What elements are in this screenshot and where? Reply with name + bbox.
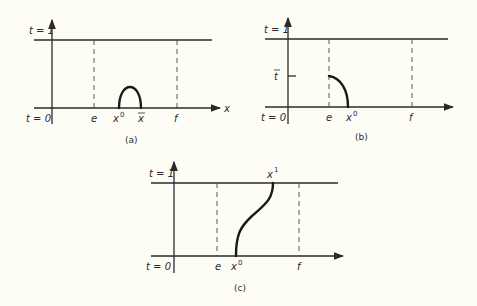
panel-a: t = 1 t = 0 x e x 0 x f (a) [26,20,230,145]
e-label: e [215,261,221,272]
x0-label: x [345,112,352,123]
x1-sup: 1 [274,166,278,174]
e-label: e [91,113,97,124]
caption-a: (a) [125,135,138,145]
x0-sup: 0 [353,110,357,118]
t1-label: t = 1 [149,168,174,179]
x-axis-label: x [223,103,230,114]
t1-label: t = 1 [29,25,54,36]
x1-label: x [266,169,273,180]
x0-sup: 0 [120,111,124,119]
caption-c: (c) [234,283,246,293]
xbar-label: x [137,113,144,124]
arc-curve [329,76,348,107]
bump-curve [119,87,141,108]
t0-label: t = 0 [146,261,171,272]
caption-b: (b) [355,132,368,142]
x0-sup: 0 [238,259,242,267]
panel-b: t = 1 t = 0 t e x 0 f (b) [261,18,453,142]
t1-label: t = 1 [264,24,289,35]
t0-label: t = 0 [26,113,51,124]
s-curve [236,183,273,256]
x0-label: x [230,261,237,272]
tbar-label: t [274,71,279,82]
diagram-canvas: t = 1 t = 0 x e x 0 x f (a) t = 1 t = 0 … [0,0,477,306]
f-label: f [409,112,414,123]
t0-label: t = 0 [261,112,286,123]
x0-label: x [112,113,119,124]
f-label: f [174,113,179,124]
panel-c: t = 1 t = 0 x 1 e x 0 f (c) [146,162,343,293]
e-label: e [326,112,332,123]
f-label: f [297,261,302,272]
